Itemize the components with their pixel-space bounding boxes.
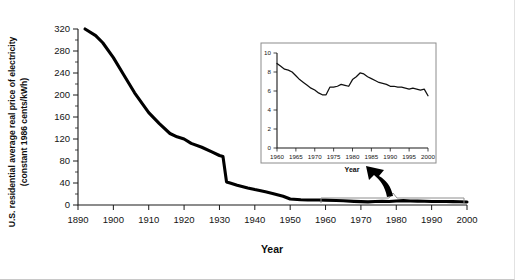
main-x-tick-label: 1900 — [103, 214, 124, 225]
main-y-tick-label: 200 — [54, 89, 70, 100]
inset-x-tick-label: 1970 — [308, 153, 322, 160]
main-x-tick-label: 1890 — [67, 214, 88, 225]
main-x-tick-label: 1920 — [174, 214, 195, 225]
inset-x-tick-label: 1960 — [270, 153, 284, 160]
inset-y-tick-label: 2 — [268, 125, 272, 132]
inset-x-tick-label: 1990 — [383, 153, 397, 160]
main-x-tick-label: 1960 — [315, 214, 336, 225]
inset-pointer-arrow — [366, 166, 393, 197]
main-x-tick-label: 2000 — [456, 214, 477, 225]
chart-figure: 04080120160200240280320 1890190019101920… — [0, 0, 515, 280]
main-y-axis-title-line2: (constant 1986 cents/kWh) — [19, 78, 29, 187]
main-y-tick-label: 80 — [59, 155, 70, 166]
electricity-price-chart: 04080120160200240280320 1890190019101920… — [0, 0, 515, 280]
main-x-tick-label: 1910 — [138, 214, 159, 225]
inset-x-axis-title: Year — [345, 166, 360, 173]
main-y-tick-label: 0 — [65, 199, 70, 210]
inset-x-tick-labels: 196019651970197519801985199019952000 — [270, 153, 435, 160]
main-y-ticks — [73, 29, 78, 205]
main-x-axis-title: Year — [261, 243, 283, 255]
main-y-tick-label: 280 — [54, 45, 70, 56]
inset-x-tick-label: 1980 — [346, 153, 360, 160]
main-x-tick-label: 1980 — [386, 214, 407, 225]
main-x-tick-label: 1970 — [350, 214, 371, 225]
inset-y-tick-label: 0 — [268, 144, 272, 151]
main-x-tick-label: 1940 — [244, 214, 265, 225]
inset-plot: 0246810 19601965197019751980198519901995… — [261, 43, 436, 173]
inset-y-tick-label: 4 — [268, 106, 272, 113]
main-y-tick-label: 320 — [54, 23, 70, 34]
inset-x-tick-label: 1965 — [289, 153, 303, 160]
main-y-tick-label: 120 — [54, 133, 70, 144]
main-x-tick-label: 1930 — [209, 214, 230, 225]
main-x-tick-label: 1990 — [421, 214, 442, 225]
main-x-tick-labels: 1890190019101920193019401950196019701980… — [67, 214, 477, 225]
inset-x-tick-label: 2000 — [421, 153, 435, 160]
inset-y-tick-label: 6 — [268, 87, 272, 94]
main-y-tick-labels: 04080120160200240280320 — [54, 23, 70, 210]
main-y-axis-title-line1: U.S. residential average real price of e… — [7, 36, 17, 227]
main-y-tick-label: 160 — [54, 111, 70, 122]
inset-y-tick-label: 8 — [268, 68, 272, 75]
main-x-ticks — [78, 205, 467, 210]
main-y-tick-label: 40 — [59, 177, 70, 188]
inset-frame-box — [261, 43, 436, 163]
main-x-tick-label: 1950 — [280, 214, 301, 225]
main-y-tick-label: 240 — [54, 67, 70, 78]
inset-callout — [321, 166, 464, 203]
inset-x-tick-label: 1975 — [327, 153, 341, 160]
inset-x-tick-label: 1995 — [402, 153, 416, 160]
inset-y-tick-label: 10 — [264, 49, 271, 56]
inset-x-tick-label: 1985 — [364, 153, 378, 160]
